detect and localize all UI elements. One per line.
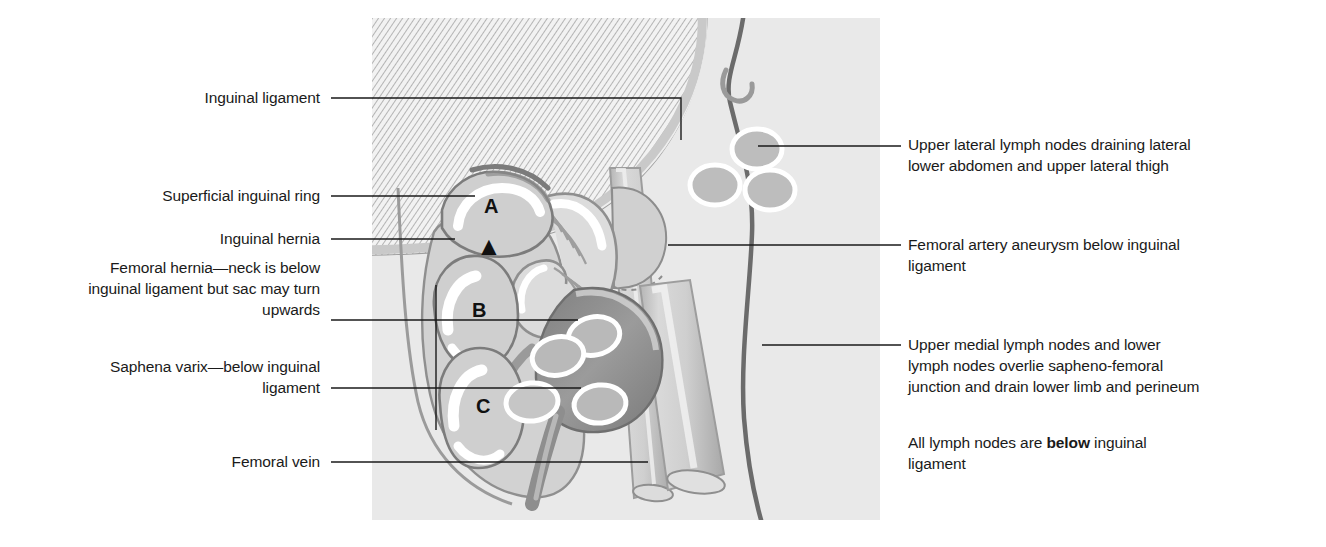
illustration-svg bbox=[372, 18, 880, 520]
marker-a: A bbox=[484, 196, 498, 216]
marker-b: B bbox=[472, 300, 486, 320]
marker-c: C bbox=[476, 396, 490, 416]
label-femoral-vein: Femoral vein bbox=[20, 451, 320, 472]
note-emphasis: below bbox=[1046, 434, 1089, 451]
label-lymph-node-note: All lymph nodes are below inguinal ligam… bbox=[908, 432, 1314, 474]
label-upper-medial-lymph-nodes: Upper medial lymph nodes and lower lymph… bbox=[908, 334, 1314, 397]
label-inguinal-ligament: Inguinal ligament bbox=[20, 87, 320, 108]
label-inguinal-hernia: Inguinal hernia bbox=[20, 228, 320, 249]
label-saphena-varix: Saphena varix—below inguinal ligament bbox=[20, 356, 320, 398]
label-femoral-hernia: Femoral hernia—neck is below inguinal li… bbox=[20, 257, 320, 320]
direction-arrow-icon: ▲ bbox=[476, 236, 502, 257]
figure-canvas: A B C ▲ Inguinal ligament Superficia bbox=[0, 0, 1326, 547]
note-prefix: All lymph nodes are bbox=[908, 434, 1046, 451]
label-superficial-inguinal-ring: Superficial inguinal ring bbox=[20, 185, 320, 206]
label-upper-lateral-lymph-nodes: Upper lateral lymph nodes draining later… bbox=[908, 134, 1314, 176]
anatomical-illustration: A B C ▲ bbox=[372, 18, 880, 520]
label-femoral-artery-aneurysm: Femoral artery aneurysm below inguinal l… bbox=[908, 234, 1314, 276]
